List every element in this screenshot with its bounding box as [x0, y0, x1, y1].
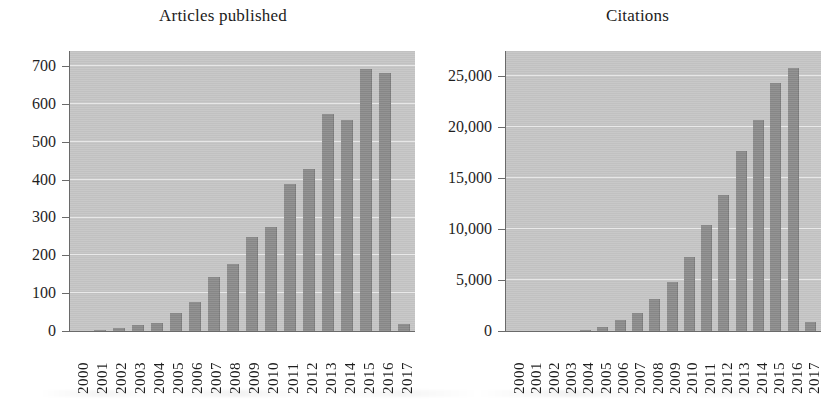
x-tick-label-2015: 2015	[771, 336, 781, 394]
x-tick-label-2008: 2008	[650, 336, 660, 394]
bar-2010	[684, 257, 695, 331]
y-tick-mark-400	[62, 180, 69, 181]
bar-2004	[151, 323, 163, 331]
bar-2008	[649, 299, 660, 331]
bar-2011	[284, 184, 296, 331]
bar-2010	[265, 227, 277, 331]
x-tick-label-2000: 2000	[511, 336, 521, 394]
y-tick-mark-0	[62, 331, 69, 332]
x-tick-label-2007: 2007	[208, 336, 219, 394]
y-tick-label-200: 200	[0, 246, 56, 264]
bar-2012	[718, 195, 729, 331]
chart-title-citations: Citations	[420, 6, 835, 26]
x-tick-label-2000: 2000	[75, 336, 86, 394]
panel-citations: Citations 05,00010,00015,00020,00025,000…	[420, 0, 835, 399]
bar-2011	[701, 225, 712, 331]
bar-2014	[341, 120, 353, 332]
y-tick-label-700: 700	[0, 57, 56, 75]
x-tick-label-2010: 2010	[265, 336, 276, 394]
y-tick-label-25000: 25,000	[420, 67, 492, 85]
y-tick-label-15000: 15,000	[420, 169, 492, 187]
y-tick-mark-15000	[498, 178, 505, 179]
y-tick-mark-100	[62, 293, 69, 294]
y-tick-label-600: 600	[0, 95, 56, 113]
figure-two-panel-bar-charts: Articles published 010020030040050060070…	[0, 0, 835, 399]
y-tick-label-400: 400	[0, 171, 56, 189]
plot-area-citations	[506, 51, 821, 331]
bar-series-citations	[506, 51, 821, 331]
y-tick-label-10000: 10,000	[420, 220, 492, 238]
y-tick-mark-600	[62, 104, 69, 105]
y-tick-mark-5000	[498, 280, 505, 281]
bar-2016	[788, 68, 799, 331]
bar-2013	[322, 114, 334, 331]
y-tick-mark-300	[62, 217, 69, 218]
bar-2009	[667, 282, 678, 331]
x-tick-label-2002: 2002	[113, 336, 124, 394]
x-tick-label-2004: 2004	[151, 336, 162, 394]
y-axis-line-citations	[505, 51, 506, 332]
x-tick-label-2015: 2015	[361, 336, 372, 394]
x-tick-label-2001: 2001	[94, 336, 105, 394]
x-tick-label-2006: 2006	[615, 336, 625, 394]
x-tick-label-2014: 2014	[754, 336, 764, 394]
bar-2017	[398, 324, 410, 331]
y-tick-label-20000: 20,000	[420, 118, 492, 136]
x-tick-label-2016: 2016	[380, 336, 391, 394]
x-tick-label-2013: 2013	[323, 336, 334, 394]
bar-series-articles	[70, 51, 415, 331]
x-tick-label-2009: 2009	[667, 336, 677, 394]
y-tick-label-300: 300	[0, 208, 56, 226]
y-tick-label-0: 0	[0, 322, 56, 340]
x-tick-label-2016: 2016	[789, 336, 799, 394]
y-tick-label-0: 0	[420, 322, 492, 340]
bar-2013	[736, 151, 747, 331]
x-tick-label-2010: 2010	[684, 336, 694, 394]
x-tick-label-2017: 2017	[806, 336, 816, 394]
x-axis-line-citations	[498, 331, 821, 332]
x-tick-label-2001: 2001	[528, 336, 538, 394]
x-tick-label-2003: 2003	[132, 336, 143, 394]
x-axis-line-articles	[62, 331, 415, 332]
bar-2007	[632, 313, 643, 331]
bar-2012	[303, 169, 315, 331]
x-tick-label-2013: 2013	[736, 336, 746, 394]
x-tick-label-2017: 2017	[399, 336, 410, 394]
bar-2006	[189, 302, 201, 332]
x-tick-label-2003: 2003	[563, 336, 573, 394]
bar-2015	[770, 83, 781, 331]
y-axis-line-articles	[69, 51, 70, 332]
bar-2015	[360, 69, 372, 331]
x-tick-label-2011: 2011	[702, 336, 712, 394]
bar-2008	[227, 264, 239, 331]
x-tick-label-2005: 2005	[170, 336, 181, 394]
y-tick-mark-0	[498, 331, 505, 332]
bar-2006	[615, 320, 626, 331]
x-tick-label-2009: 2009	[246, 336, 257, 394]
bar-2016	[379, 73, 391, 331]
plot-area-articles	[70, 51, 415, 331]
x-axis-labels-articles: 2000200120022003200420052006200720082009…	[70, 336, 415, 394]
x-tick-label-2012: 2012	[719, 336, 729, 394]
y-tick-mark-500	[62, 142, 69, 143]
panel-articles-published: Articles published 010020030040050060070…	[0, 0, 420, 399]
bar-2017	[805, 322, 816, 331]
x-tick-label-2008: 2008	[227, 336, 238, 394]
y-tick-mark-10000	[498, 229, 505, 230]
y-tick-mark-20000	[498, 127, 505, 128]
x-tick-label-2005: 2005	[598, 336, 608, 394]
bar-2014	[753, 120, 764, 331]
bar-2009	[246, 237, 258, 331]
x-tick-label-2004: 2004	[580, 336, 590, 394]
x-tick-label-2007: 2007	[632, 336, 642, 394]
y-tick-label-500: 500	[0, 133, 56, 151]
x-tick-label-2014: 2014	[342, 336, 353, 394]
y-tick-mark-200	[62, 255, 69, 256]
x-tick-label-2011: 2011	[285, 336, 296, 394]
y-tick-mark-25000	[498, 76, 505, 77]
x-tick-label-2002: 2002	[546, 336, 556, 394]
y-tick-label-5000: 5,000	[420, 271, 492, 289]
x-tick-label-2012: 2012	[304, 336, 315, 394]
bar-2007	[208, 277, 220, 331]
x-axis-labels-citations: 2000200120022003200420052006200720082009…	[506, 336, 821, 394]
